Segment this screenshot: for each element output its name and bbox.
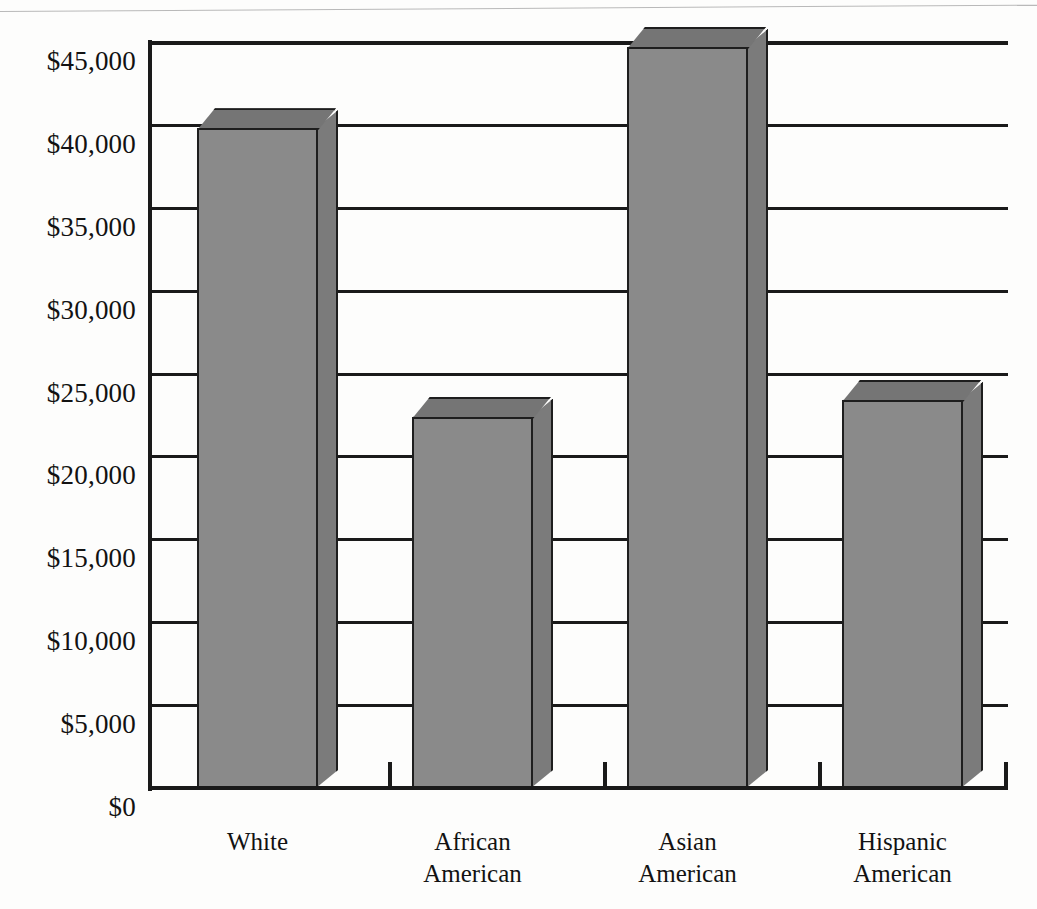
x-axis-end-tick bbox=[1004, 762, 1008, 788]
bar-asian-american bbox=[627, 29, 766, 788]
y-axis-line bbox=[148, 40, 152, 791]
x-tick-label-hispanic-american: HispanicAmerican bbox=[802, 826, 1003, 889]
bar-front-face bbox=[197, 128, 318, 788]
y-tick-label-35000: $35,000 bbox=[0, 214, 136, 241]
bar-top-face bbox=[197, 108, 336, 130]
gridline-45000 bbox=[148, 41, 1008, 45]
plot-area bbox=[148, 42, 1008, 788]
y-tick-label-15000: $15,000 bbox=[0, 545, 136, 572]
category-label-line: American bbox=[587, 858, 788, 890]
category-label-line: Hispanic bbox=[802, 826, 1003, 858]
y-axis-tick-labels: $0$5,000$10,000$15,000$20,000$25,000$30,… bbox=[0, 0, 136, 909]
bar-side-face bbox=[316, 110, 338, 788]
bar-white bbox=[197, 110, 336, 788]
category-separator-tick-3 bbox=[818, 762, 822, 788]
bar-top-face bbox=[842, 380, 981, 402]
bar-chart-figure: $0$5,000$10,000$15,000$20,000$25,000$30,… bbox=[0, 0, 1037, 909]
y-tick-label-45000: $45,000 bbox=[0, 48, 136, 75]
y-tick-label-40000: $40,000 bbox=[0, 131, 136, 158]
bar-side-face bbox=[746, 29, 768, 788]
y-tick-label-20000: $20,000 bbox=[0, 462, 136, 489]
bar-top-face bbox=[627, 27, 766, 49]
bar-front-face bbox=[627, 47, 748, 788]
x-axis-line bbox=[148, 786, 1008, 790]
x-tick-label-asian-american: AsianAmerican bbox=[587, 826, 788, 889]
bar-front-face bbox=[412, 417, 533, 788]
x-tick-label-african-american: AfricanAmerican bbox=[372, 826, 573, 889]
category-separator-tick-1 bbox=[388, 762, 392, 788]
chart-page: $0$5,000$10,000$15,000$20,000$25,000$30,… bbox=[0, 0, 1037, 909]
bar-hispanic-american bbox=[842, 382, 981, 788]
bar-top-face bbox=[412, 397, 551, 419]
category-label-line: African bbox=[372, 826, 573, 858]
y-tick-label-0: $0 bbox=[0, 794, 136, 821]
y-tick-label-5000: $5,000 bbox=[0, 711, 136, 738]
category-label-line: American bbox=[802, 858, 1003, 890]
category-label-line: White bbox=[157, 826, 358, 858]
y-tick-label-10000: $10,000 bbox=[0, 628, 136, 655]
bar-african-american bbox=[412, 399, 551, 788]
category-label-line: Asian bbox=[587, 826, 788, 858]
bar-front-face bbox=[842, 400, 963, 788]
bar-side-face bbox=[531, 399, 553, 788]
category-label-line: American bbox=[372, 858, 573, 890]
y-tick-label-30000: $30,000 bbox=[0, 297, 136, 324]
y-tick-label-25000: $25,000 bbox=[0, 380, 136, 407]
bar-side-face bbox=[961, 382, 983, 788]
x-tick-label-white: White bbox=[157, 826, 358, 858]
category-separator-tick-2 bbox=[603, 762, 607, 788]
x-axis-category-labels: WhiteAfricanAmericanAsianAmericanHispani… bbox=[148, 826, 1008, 906]
